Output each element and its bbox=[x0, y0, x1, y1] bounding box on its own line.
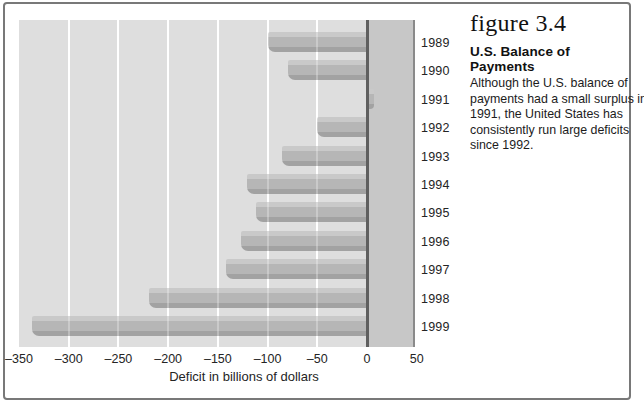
bar-1994 bbox=[247, 174, 367, 194]
year-label-1999: 1999 bbox=[421, 320, 450, 334]
figure-description-line: 1991, the United States has bbox=[470, 107, 622, 123]
year-label-1996: 1996 bbox=[421, 235, 450, 249]
bar-1989 bbox=[268, 32, 367, 52]
x-tick--100: –100 bbox=[254, 352, 282, 366]
figure-number-label: figure 3.4 bbox=[470, 10, 622, 37]
figure-heading: U.S. Balance of Payments bbox=[470, 44, 622, 74]
x-tick--350: –350 bbox=[5, 352, 33, 366]
caption-column: figure 3.4 U.S. Balance of Payments Alth… bbox=[470, 10, 622, 154]
x-tick--300: –300 bbox=[55, 352, 83, 366]
bar-1999 bbox=[32, 316, 367, 336]
plot-area bbox=[19, 20, 415, 347]
figure-panel: 1989199019911992199319941995199619971998… bbox=[0, 0, 644, 410]
gridline bbox=[117, 20, 119, 347]
x-tick--50: –50 bbox=[307, 352, 328, 366]
year-label-1991: 1991 bbox=[421, 93, 450, 107]
figure-description-line: payments had a small surplus in bbox=[470, 92, 622, 108]
x-tick--150: –150 bbox=[204, 352, 232, 366]
year-label-1998: 1998 bbox=[421, 292, 450, 306]
year-label-1989: 1989 bbox=[421, 36, 450, 50]
gridline bbox=[68, 20, 70, 347]
year-label-1990: 1990 bbox=[421, 64, 450, 78]
figure-description-line: consistently run large deficits bbox=[470, 123, 622, 139]
x-axis-title: Deficit in billions of dollars bbox=[169, 369, 319, 384]
figure-description-line: Although the U.S. balance of bbox=[470, 76, 622, 92]
bar-1992 bbox=[317, 117, 367, 137]
year-label-1997: 1997 bbox=[421, 263, 450, 277]
bar-1996 bbox=[241, 231, 367, 251]
year-label-1995: 1995 bbox=[421, 206, 450, 220]
figure-description: Although the U.S. balance of payments ha… bbox=[470, 76, 622, 154]
bar-1993 bbox=[282, 146, 367, 166]
x-tick--200: –200 bbox=[154, 352, 182, 366]
year-label-1992: 1992 bbox=[421, 121, 450, 135]
zero-axis-line bbox=[366, 20, 369, 347]
positive-region-band bbox=[367, 20, 415, 347]
bar-1990 bbox=[288, 60, 367, 80]
bar-1998 bbox=[149, 288, 367, 308]
figure-description-line: since 1992. bbox=[470, 138, 622, 154]
bar-1997 bbox=[226, 259, 367, 279]
bar-1991 bbox=[369, 89, 374, 109]
bar-1995 bbox=[256, 202, 367, 222]
x-tick-0: 0 bbox=[364, 352, 371, 366]
x-tick-50: 50 bbox=[410, 352, 424, 366]
year-label-1993: 1993 bbox=[421, 150, 450, 164]
year-label-1994: 1994 bbox=[421, 178, 450, 192]
x-tick--250: –250 bbox=[105, 352, 133, 366]
plot-right-edge bbox=[413, 20, 415, 347]
